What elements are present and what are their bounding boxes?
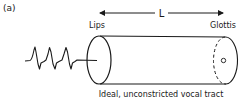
glottis-opening-icon <box>221 58 225 62</box>
panel-label: (a) <box>3 3 16 13</box>
lips-label: Lips <box>89 21 105 30</box>
diagram-caption: Ideal, unconstricted vocal tract <box>99 90 224 99</box>
sound-waveform <box>25 47 97 69</box>
glottis-label: Glottis <box>210 21 236 30</box>
vocal-tract-diagram: (a) L Lips Glottis Ideal, unconstricted … <box>0 0 247 105</box>
tube-cylinder <box>87 36 238 84</box>
length-label: L <box>159 8 165 19</box>
